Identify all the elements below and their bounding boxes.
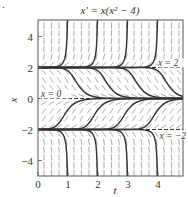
slope-mark xyxy=(74,146,75,152)
slope-mark xyxy=(155,116,158,121)
slope-mark xyxy=(139,101,144,104)
slope-mark xyxy=(125,85,129,90)
equilibrium-label: x = −2 xyxy=(159,131,187,141)
slope-mark xyxy=(177,70,182,74)
slope-mark xyxy=(169,70,174,74)
slope-mark xyxy=(104,146,105,152)
slope-mark xyxy=(104,46,105,52)
slope-mark xyxy=(51,54,52,60)
slope-mark xyxy=(171,46,172,52)
slope-mark xyxy=(117,85,121,90)
slope-mark xyxy=(109,101,114,104)
slope-mark xyxy=(164,146,165,152)
slope-mark xyxy=(164,46,165,52)
slope-mark xyxy=(162,85,166,90)
x-axis-label: x xyxy=(7,97,19,103)
x-tick-label: 0 xyxy=(28,93,34,105)
slope-mark xyxy=(109,62,114,66)
slope-mark xyxy=(80,131,83,136)
slope-mark xyxy=(139,62,144,66)
slope-mark xyxy=(155,77,158,82)
slope-mark xyxy=(87,85,91,90)
slope-mark xyxy=(119,146,120,152)
slope-mark xyxy=(51,139,52,145)
equilibrium-label: x = 0 xyxy=(40,89,61,99)
slope-mark xyxy=(81,54,82,60)
slope-mark xyxy=(44,46,45,52)
slope-mark xyxy=(65,85,69,90)
slope-mark xyxy=(42,62,47,66)
slope-mark xyxy=(117,108,121,113)
slope-mark xyxy=(141,146,142,152)
slope-mark xyxy=(176,101,181,104)
slope-mark xyxy=(169,94,175,96)
slope-mark xyxy=(176,125,181,129)
t-tick-label: 0 xyxy=(35,178,41,190)
slope-mark xyxy=(133,54,134,60)
slope-mark xyxy=(132,70,137,74)
solution-curve xyxy=(38,99,183,130)
slope-mark xyxy=(95,85,99,90)
slope-mark xyxy=(88,139,89,145)
slope-mark xyxy=(132,131,135,136)
slope-mark xyxy=(81,139,82,145)
slope-mark xyxy=(43,54,44,60)
slope-mark xyxy=(177,108,181,113)
slope-mark xyxy=(118,54,119,60)
slope-mark xyxy=(71,125,76,129)
slope-mark xyxy=(72,108,76,113)
slope-mark xyxy=(42,131,45,136)
slope-mark xyxy=(74,46,75,52)
slope-mark xyxy=(147,85,151,90)
slope-mark xyxy=(73,139,74,145)
slope-mark xyxy=(146,101,151,104)
slope-mark xyxy=(79,101,84,104)
slope-mark xyxy=(41,125,46,129)
slope-mark xyxy=(161,125,166,129)
slope-mark xyxy=(51,146,52,152)
slope-mark xyxy=(49,70,54,74)
slope-mark xyxy=(169,101,174,104)
slope-mark xyxy=(102,62,107,66)
slope-mark xyxy=(149,46,150,52)
slope-mark xyxy=(134,146,135,152)
slope-mark xyxy=(65,116,68,121)
slope-mark xyxy=(50,77,53,82)
slope-mark xyxy=(171,146,172,152)
slope-mark xyxy=(42,77,45,82)
slope-mark xyxy=(154,101,159,104)
slope-mark xyxy=(87,108,91,113)
slope-mark xyxy=(81,46,82,52)
slope-mark xyxy=(124,101,129,104)
slope-mark xyxy=(65,131,68,136)
slope-mark xyxy=(124,125,129,129)
slope-mark xyxy=(102,70,107,74)
slope-mark xyxy=(79,62,84,66)
figure-marker: . xyxy=(2,0,5,10)
slope-mark xyxy=(50,131,53,136)
slope-mark xyxy=(58,54,59,60)
slope-mark xyxy=(44,146,45,152)
slope-mark xyxy=(116,101,121,104)
slope-mark xyxy=(140,131,143,136)
solution-curve xyxy=(38,20,68,68)
slope-mark xyxy=(42,70,47,74)
slope-mark xyxy=(87,77,90,82)
slope-mark xyxy=(177,77,180,82)
slope-mark xyxy=(111,46,112,52)
slope-mark xyxy=(109,70,114,74)
slope-mark xyxy=(58,139,59,145)
slope-mark xyxy=(80,77,83,82)
slope-mark xyxy=(110,77,113,82)
slope-mark xyxy=(50,116,53,121)
slope-mark xyxy=(132,108,136,113)
slope-mark xyxy=(170,116,173,121)
slope-mark xyxy=(147,77,150,82)
slope-mark xyxy=(71,94,77,96)
slope-mark xyxy=(65,77,68,82)
slope-mark xyxy=(132,116,135,121)
slope-mark xyxy=(102,108,106,113)
slope-mark xyxy=(95,116,98,121)
slope-mark xyxy=(132,85,136,90)
slope-mark xyxy=(88,54,89,60)
